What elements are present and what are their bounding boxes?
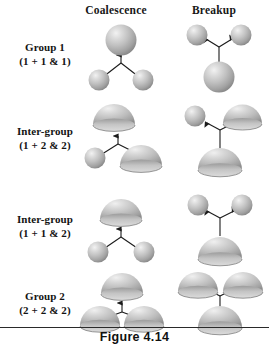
row-label-line1: Inter-group [0, 213, 90, 227]
particle-sphere [106, 25, 137, 56]
row-label-line1: Inter-group [0, 125, 90, 139]
cell-inter-group-1-2-2-coalescence [82, 100, 168, 178]
particle-sphere [134, 242, 155, 263]
particle-sphere [133, 70, 154, 91]
particle-sphere [85, 148, 106, 169]
row-label-inter-group-1-1-2: Inter-group (1 + 1 & 2) [0, 213, 90, 240]
breakup-connector-icon [207, 211, 234, 236]
coalescence-connector-icon [102, 229, 140, 250]
breakup-connector-icon [206, 39, 232, 63]
cell-inter-group-1-1-2-coalescence [84, 192, 162, 266]
row-label-line2: (1 + 2 & 2) [0, 139, 90, 153]
particle-sphere [187, 25, 208, 46]
cell-group-1-coalescence [84, 22, 158, 92]
figure-4-14: Coalescence Breakup [0, 0, 269, 351]
row-label-line2: (1 + 1 & 2) [0, 227, 90, 241]
cell-inter-group-1-2-2-breakup [180, 100, 266, 178]
column-header-coalescence: Coalescence [72, 4, 160, 16]
particle-sphere [231, 25, 252, 46]
particle-dome [178, 272, 218, 298]
particle-dome [223, 105, 262, 131]
row-label-inter-group-1-2-2: Inter-group (1 + 2 & 2) [0, 125, 90, 152]
coalescence-connector-icon [103, 55, 139, 77]
particle-dome [101, 273, 143, 300]
row-label-line1: Group 2 [0, 290, 90, 304]
figure-caption: Figure 4.14 [0, 330, 269, 344]
particle-dome [198, 148, 242, 177]
particle-sphere [188, 195, 209, 216]
particle-sphere [204, 62, 235, 93]
cell-group-1-breakup [182, 22, 256, 92]
cell-group-2-coalescence [78, 268, 168, 330]
particle-dome [93, 104, 135, 131]
particle-dome [198, 237, 242, 266]
particle-sphere [232, 195, 253, 216]
bottom-rule [0, 327, 269, 328]
particle-sphere [88, 242, 109, 263]
row-label-line2: (1 + 1 & 1) [0, 55, 90, 69]
particle-dome [80, 306, 120, 332]
column-header-breakup: Breakup [172, 4, 256, 16]
particle-sphere [89, 70, 110, 91]
cell-inter-group-1-1-2-breakup [184, 192, 262, 266]
particle-dome [124, 306, 164, 332]
row-label-group-2: Group 2 (2 + 2 & 2) [0, 290, 90, 317]
row-label-line2: (2 + 2 & 2) [0, 304, 90, 318]
cell-group-2-breakup [176, 268, 266, 330]
row-label-line1: Group 1 [0, 41, 90, 55]
particle-sphere [185, 106, 206, 127]
row-label-group-1: Group 1 (1 + 1 & 1) [0, 41, 90, 68]
particle-dome [223, 272, 263, 298]
particle-dome [120, 145, 162, 172]
particle-dome [100, 199, 142, 226]
